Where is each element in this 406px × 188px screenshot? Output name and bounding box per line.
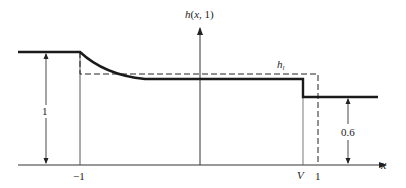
dashed-profile-label: hl bbox=[277, 58, 285, 72]
diagram-canvas: h(x, 1) x −1 V 1 1 0.6 hl bbox=[0, 0, 406, 188]
tick-label-minus-one: −1 bbox=[73, 170, 85, 182]
tick-label-v: V bbox=[297, 169, 305, 181]
tick-label-one: 1 bbox=[315, 170, 321, 182]
height-label-one: 1 bbox=[42, 105, 48, 117]
y-axis-label: h(x, 1) bbox=[185, 8, 214, 21]
height-label-point-six: 0.6 bbox=[341, 126, 355, 138]
x-axis-label: x bbox=[380, 158, 387, 172]
